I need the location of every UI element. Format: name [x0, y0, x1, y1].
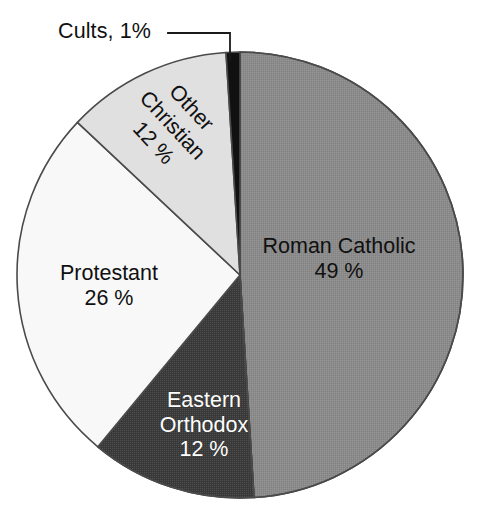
pie-label-cults: Cults, 1%: [58, 19, 151, 44]
pie-label-eastern-orthodox-name-1: Eastern: [134, 388, 274, 413]
pie-label-roman-catholic-value: 49 %: [248, 259, 430, 284]
pie-label-eastern-orthodox-value: 12 %: [134, 437, 274, 462]
pie-label-protestant-name: Protestant: [33, 261, 185, 286]
pie-label-eastern-orthodox-name-2: Orthodox: [134, 413, 274, 438]
pie-label-protestant-value: 26 %: [33, 286, 185, 311]
pie-label-eastern-orthodox: Eastern Orthodox 12 %: [134, 388, 274, 462]
pie-label-cults-text: Cults, 1%: [58, 19, 151, 44]
pie-label-roman-catholic-name: Roman Catholic: [248, 234, 430, 259]
pie-label-protestant: Protestant 26 %: [33, 261, 185, 310]
pie-chart: Cults, 1% Roman Catholic 49 % Protestant…: [0, 0, 478, 525]
pie-label-roman-catholic: Roman Catholic 49 %: [248, 234, 430, 283]
